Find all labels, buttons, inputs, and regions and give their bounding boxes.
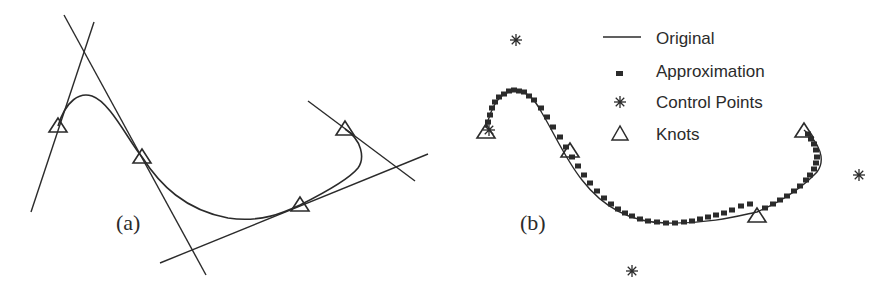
legend-item-knots: Knots <box>612 125 699 144</box>
approximation-marker <box>713 213 719 218</box>
legend-label: Knots <box>656 125 699 144</box>
approximation-marker <box>811 167 817 172</box>
approximation-markers <box>485 88 820 226</box>
legend-label: Original <box>656 29 715 48</box>
curve-original-a <box>58 95 362 219</box>
approximation-marker <box>697 217 703 222</box>
tangent-lines <box>31 15 428 275</box>
tangent-line <box>31 22 94 212</box>
approximation-marker <box>813 148 819 153</box>
tangent-line <box>308 101 415 181</box>
approximation-marker <box>777 198 783 203</box>
approximation-marker <box>803 178 809 183</box>
approximation-marker <box>544 115 550 120</box>
approximation-marker <box>601 196 607 201</box>
approximation-marker <box>721 211 727 216</box>
approximation-marker <box>492 100 498 105</box>
approximation-marker <box>738 204 744 209</box>
approximation-marker <box>615 207 621 212</box>
legend-item-approximation: Approximation <box>616 62 765 81</box>
square-marker-icon <box>616 71 623 76</box>
approximation-marker <box>672 221 678 226</box>
legend: Original Approximation Control Points Kn… <box>603 29 765 144</box>
control-point-asterisk-icon <box>626 265 638 277</box>
figure-canvas: (a) (b) Original Approximation Control P… <box>0 0 896 291</box>
panel-label-b: (b) <box>520 210 546 235</box>
approximation-marker <box>489 106 495 111</box>
legend-item-original: Original <box>603 29 715 48</box>
approximation-marker <box>813 161 819 166</box>
approximation-marker <box>811 142 817 147</box>
approximation-marker <box>550 125 556 130</box>
approximation-marker <box>654 220 660 225</box>
approximation-marker <box>594 189 600 194</box>
control-point-asterisk-icon <box>510 34 522 46</box>
approximation-marker <box>645 219 651 224</box>
approximation-marker <box>797 184 803 189</box>
approximation-marker <box>663 221 669 226</box>
legend-label: Control Points <box>656 93 763 112</box>
approximation-marker <box>587 181 593 186</box>
control-point-asterisk-icon <box>853 169 865 181</box>
approximation-marker <box>814 155 820 160</box>
approximation-marker <box>729 208 735 213</box>
approximation-marker <box>791 189 797 194</box>
approximation-marker <box>762 206 768 211</box>
panel-label-a: (a) <box>116 210 140 235</box>
legend-label: Approximation <box>656 62 765 81</box>
triangle-marker-icon <box>612 126 628 140</box>
approximation-marker <box>747 202 753 207</box>
approximation-marker <box>681 220 687 225</box>
approximation-marker <box>581 173 587 178</box>
approximation-marker <box>557 135 563 140</box>
approximation-marker <box>629 214 635 219</box>
panel-b: (b) Original Approximation Control Point… <box>477 29 865 277</box>
tangent-line <box>64 15 206 275</box>
approximation-marker <box>770 202 776 207</box>
legend-item-control-points: Control Points <box>614 93 763 112</box>
approximation-marker <box>487 113 493 118</box>
approximation-marker <box>531 98 537 103</box>
approximation-marker <box>608 202 614 207</box>
approximation-marker <box>784 194 790 199</box>
panel-a: (a) <box>31 15 428 275</box>
approximation-marker <box>637 217 643 222</box>
approximation-marker <box>807 173 813 178</box>
approximation-marker <box>689 219 695 224</box>
approximation-marker <box>622 211 628 216</box>
asterisk-marker-icon <box>614 96 626 108</box>
control-point-asterisk-icon <box>483 124 495 136</box>
knots-a <box>49 118 354 211</box>
approximation-marker <box>538 106 544 111</box>
approximation-marker <box>575 164 581 169</box>
approximation-marker <box>705 215 711 220</box>
